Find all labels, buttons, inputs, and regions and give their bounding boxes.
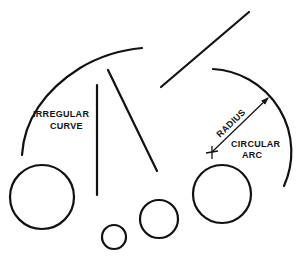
diagonal-line	[108, 70, 157, 171]
upper-diagonal-line	[161, 12, 249, 87]
small-circle	[102, 225, 126, 249]
right-circle	[193, 165, 251, 223]
irregular-curve-label-line2: CURVE	[50, 121, 83, 131]
diagram-canvas: IRREGULAR CURVE RADIUS CIRCULAR ARC	[0, 0, 306, 265]
diagram-svg: IRREGULAR CURVE RADIUS CIRCULAR ARC	[0, 0, 306, 265]
large-circle	[10, 165, 74, 229]
circular-arc-label-line2: ARC	[242, 150, 263, 160]
medium-circle	[140, 200, 178, 238]
irregular-curve-label-line1: IRREGULAR	[33, 109, 89, 119]
circular-arc-label-line1: CIRCULAR	[231, 139, 281, 149]
